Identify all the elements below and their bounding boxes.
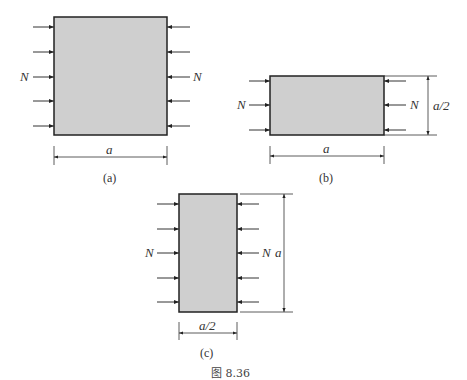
panel-b: N N a/2 a (b) xyxy=(236,76,450,185)
panel-label-b: (b) xyxy=(319,171,333,185)
tall-plate xyxy=(179,194,237,312)
height-label: a/2 xyxy=(433,98,450,113)
panel-c: N N a a/2 (c) xyxy=(144,194,293,360)
width-label: a xyxy=(106,142,113,157)
figure-caption: 图 8.36 xyxy=(211,367,250,380)
left-force-label: N xyxy=(236,97,247,112)
left-force-label: N xyxy=(19,69,30,84)
right-force-arrows xyxy=(384,81,406,130)
height-label: a xyxy=(275,245,282,260)
figure-8-36: N N a (a) N N a/2 xyxy=(0,0,467,380)
left-force-label: N xyxy=(144,245,155,260)
panel-a: N N a (a) xyxy=(19,17,203,185)
right-force-label: N xyxy=(261,245,272,260)
panel-label-a: (a) xyxy=(103,171,116,185)
square-plate xyxy=(54,17,167,135)
right-force-label: N xyxy=(192,69,203,84)
wide-plate xyxy=(270,76,384,135)
right-force-arrows xyxy=(167,27,190,126)
left-force-arrows xyxy=(249,81,270,130)
panel-label-c: (c) xyxy=(200,346,213,360)
right-force-label: N xyxy=(409,97,420,112)
width-label: a/2 xyxy=(199,318,216,333)
right-force-arrows xyxy=(237,204,259,302)
left-force-arrows xyxy=(33,27,54,126)
width-label: a xyxy=(323,141,330,156)
left-force-arrows xyxy=(157,204,179,302)
